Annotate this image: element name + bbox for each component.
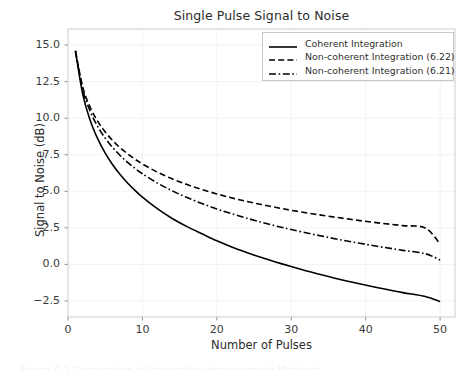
x-axis-label: Number of Pulses <box>68 338 455 352</box>
legend-line-sample-icon <box>268 38 298 50</box>
chart-legend[interactable]: Coherent IntegrationNon-coherent Integra… <box>262 32 454 81</box>
x-tick-label: 50 <box>420 323 460 336</box>
legend-label: Non-coherent Integration (6.22) <box>305 51 455 63</box>
legend-line-sample-icon <box>268 65 298 77</box>
y-axis-label: Signal to Noise (dB) <box>33 80 47 280</box>
chart-figure: Single Pulse Signal to Noise −2.50.02.55… <box>0 0 474 372</box>
caption-sliver: Figure 6.2 Comparison of Integration Imp… <box>20 365 450 370</box>
legend-label: Non-coherent Integration (6.21) <box>305 65 455 77</box>
legend-item[interactable]: Coherent Integration <box>268 37 447 51</box>
x-tick-label: 30 <box>271 323 311 336</box>
x-tick-label: 0 <box>48 323 88 336</box>
x-tick-label: 40 <box>346 323 386 336</box>
legend-label: Coherent Integration <box>305 38 403 50</box>
y-tick-label: −2.5 <box>20 294 60 307</box>
x-tick-label: 20 <box>197 323 237 336</box>
y-tick-label: 15.0 <box>20 38 60 51</box>
x-tick-label: 10 <box>122 323 162 336</box>
legend-line-sample-icon <box>268 51 298 63</box>
legend-item[interactable]: Non-coherent Integration (6.21) <box>268 64 447 78</box>
legend-item[interactable]: Non-coherent Integration (6.22) <box>268 51 447 65</box>
